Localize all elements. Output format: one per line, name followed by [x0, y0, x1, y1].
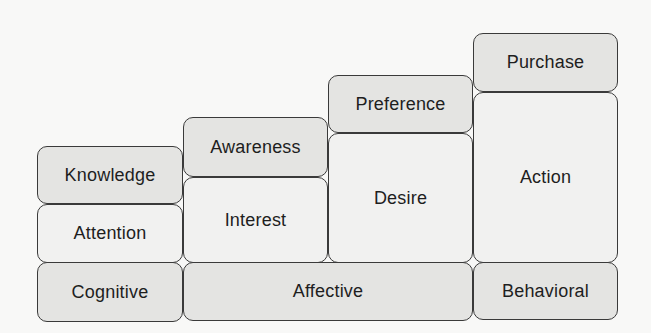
- label-behavioral: Behavioral: [502, 281, 589, 302]
- label-awareness: Awareness: [210, 137, 301, 158]
- box-desire: Desire: [328, 133, 473, 263]
- label-purchase: Purchase: [507, 52, 585, 73]
- box-awareness: Awareness: [183, 117, 328, 177]
- label-action: Action: [520, 167, 571, 188]
- box-attention: Attention: [37, 204, 183, 263]
- box-preference: Preference: [328, 75, 473, 133]
- box-interest: Interest: [183, 177, 328, 263]
- box-behavioral: Behavioral: [473, 262, 618, 320]
- label-desire: Desire: [374, 188, 427, 209]
- box-cognitive: Cognitive: [37, 262, 183, 322]
- label-affective: Affective: [293, 281, 364, 302]
- label-cognitive: Cognitive: [72, 282, 149, 303]
- box-affective: Affective: [183, 262, 473, 321]
- label-knowledge: Knowledge: [65, 165, 156, 186]
- box-purchase: Purchase: [473, 33, 618, 92]
- label-preference: Preference: [355, 94, 445, 115]
- box-knowledge: Knowledge: [37, 146, 183, 204]
- box-action: Action: [473, 92, 618, 263]
- label-attention: Attention: [74, 223, 147, 244]
- label-interest: Interest: [225, 210, 287, 231]
